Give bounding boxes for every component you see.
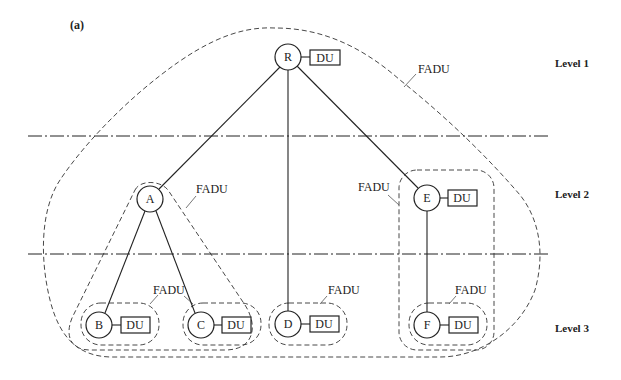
node-d: D DU [275, 311, 339, 337]
node-f-label: F [424, 318, 431, 332]
root-fadu-label: FADU [418, 62, 450, 76]
node-c-du-label: DU [227, 318, 245, 332]
edge-r-a [159, 67, 280, 189]
node-f: F DU [414, 312, 478, 338]
level-3-label: Level 3 [555, 322, 589, 334]
edge-r-e [297, 66, 418, 188]
node-r: R DU [275, 44, 340, 70]
a-group-fadu-leader [186, 196, 196, 208]
node-f-du-label: DU [454, 318, 472, 332]
level-1-label: Level 1 [555, 57, 589, 69]
node-r-du-label: DU [316, 51, 334, 65]
node-b-du-label: DU [126, 318, 144, 332]
node-b-label: B [95, 318, 103, 332]
level-2-label: Level 2 [555, 188, 589, 200]
bc-fadu-label: FADU [153, 283, 185, 297]
fadu-hierarchy-diagram: (a) Level 1 Level 2 Level 3 FADU FADU FA… [0, 0, 621, 380]
node-e-label: E [423, 191, 430, 205]
edge-a-c [156, 211, 195, 313]
e-group-fadu-boundary [399, 170, 494, 350]
edge-a-b [105, 211, 145, 313]
node-d-du-label: DU [315, 317, 333, 331]
node-a-label: A [146, 192, 155, 206]
node-c-label: C [197, 318, 205, 332]
a-group-fadu-label: FADU [196, 182, 228, 196]
f-fadu-label: FADU [455, 283, 487, 297]
e-group-fadu-label: FADU [358, 180, 390, 194]
node-e: E DU [414, 185, 477, 211]
e-group-fadu-leader [388, 195, 399, 205]
node-a: A [137, 186, 163, 212]
d-fadu-label: FADU [328, 283, 360, 297]
node-r-label: R [284, 50, 292, 64]
panel-label: (a) [70, 18, 84, 32]
node-b: B DU [86, 312, 150, 338]
root-fadu-leader [404, 74, 416, 87]
node-e-du-label: DU [453, 191, 471, 205]
node-d-label: D [284, 317, 293, 331]
node-c: C DU [188, 312, 251, 338]
